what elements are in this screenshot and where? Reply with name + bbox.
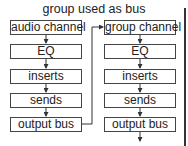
left-audio-channel-box: audio channel (10, 20, 82, 35)
left-inserts-box: inserts (10, 69, 82, 84)
left-output-bus-box: output bus (10, 117, 82, 132)
left-sends-box: sends (10, 93, 82, 108)
page-edge-divider (184, 8, 186, 146)
right-sends-box: sends (104, 93, 176, 108)
right-eq-box: EQ (104, 44, 176, 59)
left-eq-box: EQ (10, 44, 82, 59)
right-output-bus-box: output bus (104, 117, 176, 132)
right-inserts-box: inserts (104, 69, 176, 84)
right-group-channel-box: group channel (104, 20, 176, 35)
